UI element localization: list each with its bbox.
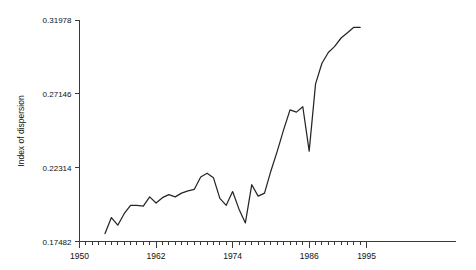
y-tick-label: 0.22314 [43,164,72,173]
x-tick-label: 1962 [147,251,166,261]
x-tick-label: 1950 [70,251,89,261]
x-tick-label: 1974 [223,251,242,261]
chart-container: 0.174820.223140.271460.31978 19501962197… [0,0,476,270]
y-tick-label: 0.27146 [43,90,72,99]
x-tick-label-group: 19501962197419861995 [70,251,376,261]
y-tick-label: 0.17482 [43,238,72,247]
x-tick-label: 1986 [300,251,319,261]
dispersion-line-chart: 0.174820.223140.271460.31978 19501962197… [0,0,476,270]
y-axis: 0.174820.223140.271460.31978 [43,16,80,247]
x-axis: 19501962197419861995 [70,242,456,261]
x-tick-label: 1995 [357,251,376,261]
y-tick-label: 0.31978 [43,16,72,25]
y-tick-label-group: 0.174820.223140.271460.31978 [43,16,72,247]
y-axis-title: Index of dispersion [16,95,26,167]
series-line-dispersion [105,27,360,233]
y-tick-group [75,20,80,242]
x-major-tick-group [80,242,367,248]
